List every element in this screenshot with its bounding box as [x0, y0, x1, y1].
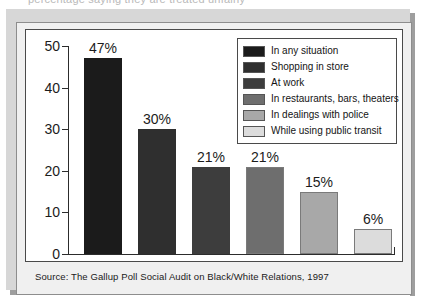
- legend-swatch: [243, 110, 265, 121]
- legend-label: In any situation: [271, 46, 338, 56]
- legend-label: In restaurants, bars, theaters: [271, 94, 399, 104]
- legend-swatch: [243, 126, 265, 137]
- bar: [300, 192, 338, 254]
- clipped-headline-strip: percentage saying they are treated unfai…: [0, 0, 421, 9]
- legend-label: At work: [271, 78, 304, 88]
- bar: [138, 129, 176, 254]
- legend-swatch: [243, 62, 265, 73]
- legend-item: Shopping in store: [243, 59, 392, 75]
- legend-swatch: [243, 78, 265, 89]
- bar-value-label: 6%: [363, 212, 383, 226]
- figure-inner-panel: 01020304050 47%30%21%21%15%6% In any sit…: [16, 22, 412, 295]
- bar-value-label: 15%: [305, 175, 333, 189]
- bar-value-label: 21%: [251, 150, 279, 164]
- bar: [84, 58, 122, 254]
- legend-label: Shopping in store: [271, 62, 349, 72]
- legend-swatch: [243, 94, 265, 105]
- bar: [354, 229, 392, 254]
- legend-item: While using public transit: [243, 123, 392, 139]
- legend-item: In restaurants, bars, theaters: [243, 91, 392, 107]
- clipped-headline-text: percentage saying they are treated unfai…: [28, 0, 245, 5]
- bar-value-label: 30%: [143, 112, 171, 126]
- legend-label: In dealings with police: [271, 110, 369, 120]
- figure-screenshot: percentage saying they are treated unfai…: [0, 0, 421, 301]
- bar: [192, 167, 230, 254]
- bar-value-label: 47%: [89, 41, 117, 55]
- plot-area: 01020304050 47%30%21%21%15%6% In any sit…: [25, 29, 403, 262]
- chart-legend: In any situationShopping in storeAt work…: [237, 38, 397, 144]
- bar: [246, 167, 284, 254]
- legend-item: At work: [243, 75, 392, 91]
- legend-item: In any situation: [243, 43, 392, 59]
- legend-rows: In any situationShopping in storeAt work…: [243, 43, 392, 139]
- bar-value-label: 21%: [197, 150, 225, 164]
- figure-card: 01020304050 47%30%21%21%15%6% In any sit…: [6, 9, 410, 290]
- legend-swatch: [243, 46, 265, 57]
- legend-label: While using public transit: [271, 126, 382, 136]
- source-caption: Source: The Gallup Poll Social Audit on …: [35, 271, 329, 282]
- legend-item: In dealings with police: [243, 107, 392, 123]
